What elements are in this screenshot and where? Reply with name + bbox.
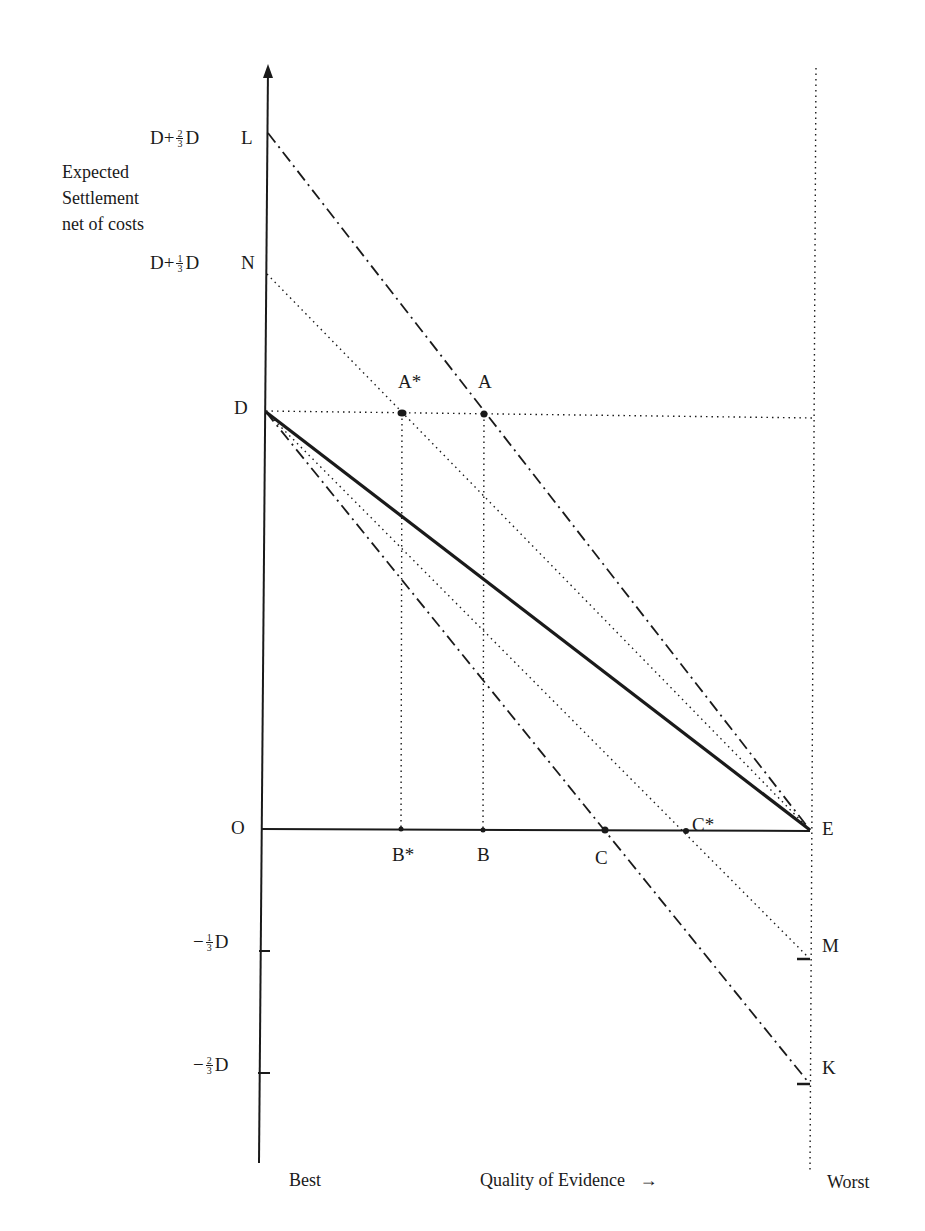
point-label-N: N	[241, 253, 255, 272]
y-axis-label-line1: Expected	[62, 159, 144, 185]
point-label-D: D	[234, 398, 248, 417]
x-axis-O-E	[262, 829, 810, 831]
x-axis-label-worst: Worst	[827, 1173, 870, 1191]
point-label-Bstar: B*	[392, 845, 414, 864]
point-label-O: O	[231, 818, 245, 837]
line-D-E	[266, 412, 810, 830]
point-label-A: A	[478, 372, 492, 391]
y-axis-label-line3: net of costs	[62, 211, 144, 237]
point-label-Astar: A*	[398, 372, 421, 391]
point-Astar-dot	[398, 410, 407, 417]
point-label-L: L	[241, 128, 253, 147]
d-horizontal-line	[266, 411, 814, 418]
y-axis	[259, 68, 268, 1163]
y-axis-label-line2: Settlement	[62, 185, 144, 211]
point-label-E: E	[822, 819, 834, 838]
point-label-M: M	[822, 936, 839, 955]
point-label-K: K	[822, 1058, 836, 1077]
line-N-E	[267, 274, 810, 830]
point-Bstar-dot	[399, 827, 404, 832]
tick-label-neg-two-thirds: −23D	[193, 1055, 228, 1076]
tick-label-neg-one-third: −13D	[193, 932, 228, 953]
line-L-E	[268, 133, 810, 830]
x-axis-title: Quality of Evidence →	[480, 1171, 657, 1189]
point-A-dot	[481, 411, 488, 418]
arrow-right-icon: →	[639, 1170, 657, 1190]
line-D-M	[266, 412, 809, 958]
tick-label-d-plus-one-third: D+13D	[150, 253, 199, 274]
x-axis-title-text: Quality of Evidence	[480, 1170, 625, 1190]
point-label-B: B	[477, 845, 490, 864]
y-axis-label: Expected Settlement net of costs	[62, 159, 144, 237]
point-label-Cstar: C*	[692, 815, 714, 834]
line-Astar-Bstar	[401, 413, 402, 829]
point-C-dot	[602, 827, 609, 834]
line-D-K	[266, 412, 809, 1083]
point-label-C: C	[595, 848, 608, 867]
worst-vertical-line	[810, 68, 816, 1170]
point-Cstar-dot	[683, 828, 689, 834]
line-A-B	[483, 414, 484, 830]
x-axis-label-best: Best	[289, 1171, 321, 1189]
point-B-dot	[481, 828, 486, 833]
y-axis-arrow-icon	[263, 64, 273, 78]
tick-label-d-plus-two-thirds: D+23D	[150, 128, 199, 149]
